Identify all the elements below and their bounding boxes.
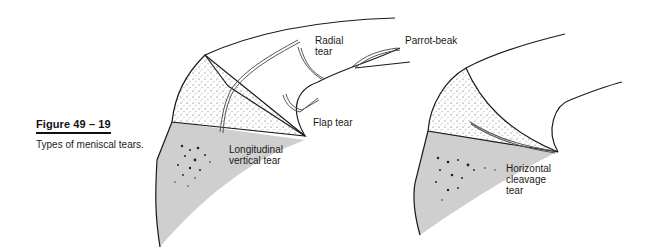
label-radial-line2: tear <box>315 46 343 57</box>
label-radial-tear: Radial tear <box>315 35 343 57</box>
label-horizontal-line2: cleavage <box>506 174 551 185</box>
label-radial-line1: Radial <box>315 35 343 46</box>
label-horizontal-line3: tear <box>506 185 551 196</box>
right-knee-drawing <box>414 34 622 235</box>
label-longitudinal-line2: vertical tear <box>229 155 283 166</box>
label-longitudinal-line1: Longitudinal <box>229 144 283 155</box>
left-knee-drawing <box>156 18 410 247</box>
label-horizontal-line1: Horizontal <box>506 163 551 174</box>
label-flap-tear: Flap tear <box>313 117 352 128</box>
label-longitudinal-tear: Longitudinal vertical tear <box>229 144 283 166</box>
left-tibia <box>156 122 305 247</box>
label-horizontal-cleavage-tear: Horizontal cleavage tear <box>506 163 551 196</box>
label-parrot-beak: Parrot-beak <box>405 35 457 46</box>
